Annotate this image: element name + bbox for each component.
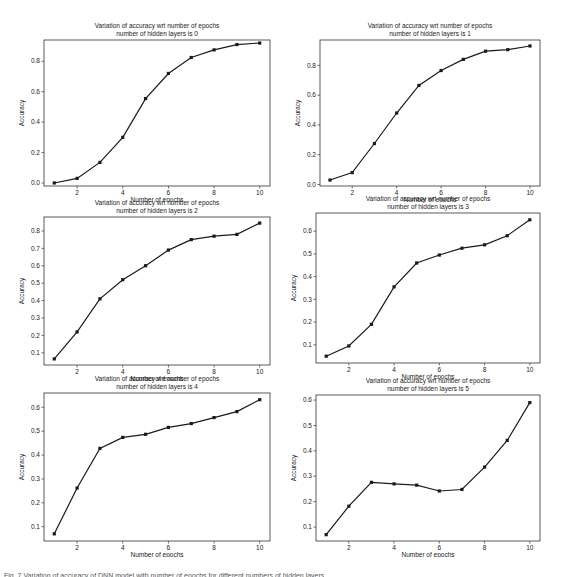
x-axis-label: Number of epochs (130, 551, 184, 557)
data-point-marker (190, 422, 193, 425)
x-tick-label: 4 (392, 544, 396, 551)
chart-title: Variation of accuracy wrt number of epoc… (95, 375, 220, 383)
data-point-marker (415, 484, 418, 487)
chart-subtitle: number of hidden layers is 5 (387, 385, 469, 393)
x-tick-label: 10 (256, 544, 264, 551)
data-line (330, 46, 530, 180)
y-tick-label: 0.8 (31, 57, 40, 64)
y-tick-label: 0.6 (31, 262, 40, 269)
data-point-marker (506, 234, 509, 237)
data-line (326, 403, 530, 535)
data-point-marker (235, 410, 238, 413)
axes-frame (44, 393, 270, 541)
x-tick-label: 2 (347, 366, 351, 373)
data-point-marker (144, 433, 147, 436)
data-point-marker (190, 238, 193, 241)
x-tick-label: 10 (526, 544, 534, 551)
data-point-marker (76, 330, 79, 333)
data-point-marker (347, 505, 350, 508)
y-tick-label: 0.6 (307, 91, 316, 98)
y-tick-label: 0.1 (31, 349, 40, 356)
y-tick-label: 0.3 (303, 296, 312, 303)
data-point-marker (328, 178, 331, 181)
data-point-marker (506, 439, 509, 442)
data-point-marker (258, 221, 261, 224)
chart-title: Variation of accuracy wrt number of epoc… (95, 199, 220, 207)
x-tick-label: 6 (167, 544, 171, 551)
y-axis-label: Accuracy (18, 453, 26, 480)
data-point-marker (98, 447, 101, 450)
y-tick-label: 0.7 (31, 245, 40, 252)
data-point-marker (167, 426, 170, 429)
y-tick-label: 0.4 (303, 447, 312, 454)
data-point-marker (347, 344, 350, 347)
data-line (326, 220, 530, 356)
data-point-marker (212, 235, 215, 238)
y-tick-label: 0.3 (303, 472, 312, 479)
y-tick-label: 0.4 (31, 297, 40, 304)
y-axis-label: Accuracy (294, 99, 302, 126)
data-point-marker (76, 177, 79, 180)
x-tick-label: 4 (121, 544, 125, 551)
data-point-marker (484, 50, 487, 53)
data-point-marker (53, 181, 56, 184)
data-point-marker (483, 243, 486, 246)
data-point-marker (98, 161, 101, 164)
x-tick-label: 8 (483, 544, 487, 551)
chart-subtitle: number of hidden layers is 3 (387, 203, 469, 211)
data-point-marker (144, 97, 147, 100)
y-tick-label: 0.4 (307, 121, 316, 128)
data-point-marker (53, 357, 56, 360)
data-point-marker (460, 247, 463, 250)
data-point-marker (373, 142, 376, 145)
y-tick-label: 0.0 (31, 179, 40, 186)
y-tick-label: 0.1 (31, 523, 40, 530)
data-point-marker (258, 398, 261, 401)
data-point-marker (76, 486, 79, 489)
chart-panel-0: Variation of accuracy wrt number of epoc… (14, 18, 274, 202)
x-tick-label: 2 (347, 544, 351, 551)
data-line (54, 223, 259, 359)
data-point-marker (506, 48, 509, 51)
y-tick-label: 0.3 (31, 314, 40, 321)
y-tick-label: 0.6 (303, 396, 312, 403)
x-tick-label: 8 (483, 366, 487, 373)
data-point-marker (325, 533, 328, 536)
data-line (54, 400, 259, 534)
x-tick-label: 8 (212, 544, 216, 551)
y-tick-label: 0.5 (303, 250, 312, 257)
chart-title: Variation of accuracy wrt number of epoc… (95, 22, 220, 30)
y-tick-label: 0.2 (307, 151, 316, 158)
axes-frame (320, 40, 540, 186)
y-tick-label: 0.4 (303, 273, 312, 280)
chart-subtitle: number of hidden layers is 4 (116, 383, 198, 391)
data-point-marker (258, 41, 261, 44)
data-point-marker (235, 43, 238, 46)
data-point-marker (325, 355, 328, 358)
y-tick-label: 0.8 (307, 62, 316, 69)
y-tick-label: 0.8 (31, 227, 40, 234)
data-point-marker (438, 489, 441, 492)
data-point-marker (415, 261, 418, 264)
x-tick-label: 6 (438, 544, 442, 551)
data-point-marker (460, 488, 463, 491)
data-point-marker (190, 56, 193, 59)
data-point-marker (370, 323, 373, 326)
data-point-marker (483, 466, 486, 469)
data-point-marker (212, 48, 215, 51)
y-tick-label: 0.1 (303, 523, 312, 530)
x-tick-label: 2 (75, 544, 79, 551)
y-axis-label: Accuracy (18, 277, 26, 304)
chart-panel-1: Variation of accuracy wrt number of epoc… (290, 18, 544, 202)
y-tick-label: 0.2 (303, 498, 312, 505)
data-point-marker (462, 58, 465, 61)
axes-frame (44, 217, 270, 365)
x-axis-label: Number of epochs (401, 551, 455, 557)
data-point-marker (167, 248, 170, 251)
data-point-marker (121, 136, 124, 139)
axes-frame (44, 40, 270, 186)
y-tick-label: 0.6 (31, 88, 40, 95)
data-point-marker (121, 278, 124, 281)
data-point-marker (212, 416, 215, 419)
y-tick-label: 0.4 (31, 118, 40, 125)
